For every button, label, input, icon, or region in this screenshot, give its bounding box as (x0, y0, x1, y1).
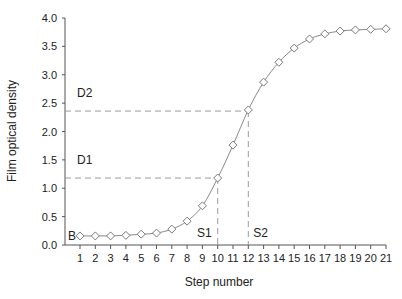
y-tick-label: 3.5 (42, 40, 57, 52)
y-tick-label: 0.0 (42, 239, 57, 251)
x-tick-label: 9 (199, 252, 205, 264)
x-tick-label: 2 (92, 252, 98, 264)
x-tick-label: 7 (169, 252, 175, 264)
diamond-marker-icon (137, 230, 145, 238)
annotation-label-d1: D1 (77, 153, 93, 167)
x-tick-label: 19 (349, 252, 361, 264)
y-tick-label: 1.5 (42, 154, 57, 166)
diamond-marker-icon (321, 30, 329, 38)
x-tick-label: 18 (334, 252, 346, 264)
chart-container: 0.00.51.01.52.02.53.03.54.01234567891011… (0, 0, 402, 299)
diamond-marker-icon (107, 232, 115, 240)
series-line (80, 29, 386, 236)
diamond-marker-icon (153, 229, 161, 237)
y-axis-title: Film optical density (5, 80, 19, 182)
diamond-marker-icon (382, 25, 390, 33)
diamond-marker-icon (229, 141, 237, 149)
annotation-label-b: B (68, 229, 76, 243)
x-axis-title: Step number (185, 275, 254, 289)
x-tick-label: 13 (257, 252, 269, 264)
diamond-marker-icon (76, 232, 84, 240)
y-tick-label: 3.0 (42, 69, 57, 81)
diamond-marker-icon (306, 35, 314, 43)
x-tick-label: 1 (77, 252, 83, 264)
y-tick-label: 2.5 (42, 97, 57, 109)
density-curve-chart: 0.00.51.01.52.02.53.03.54.01234567891011… (0, 0, 402, 299)
diamond-marker-icon (122, 231, 130, 239)
x-tick-label: 11 (227, 252, 238, 264)
x-tick-label: 6 (153, 252, 159, 264)
diamond-marker-icon (198, 202, 206, 210)
y-tick-label: 4.0 (42, 12, 57, 24)
diamond-marker-icon (168, 225, 176, 233)
y-tick-label: 1.0 (42, 182, 57, 194)
x-tick-label: 10 (212, 252, 224, 264)
diamond-marker-icon (260, 78, 268, 86)
x-tick-label: 16 (303, 252, 315, 264)
diamond-marker-icon (351, 26, 359, 34)
x-tick-label: 15 (288, 252, 300, 264)
annotation-label-d2: D2 (77, 86, 93, 100)
annotation-label-s1: S1 (197, 226, 212, 240)
x-tick-label: 5 (138, 252, 144, 264)
diamond-marker-icon (367, 25, 375, 33)
annotation-label-s2: S2 (253, 226, 268, 240)
diamond-marker-icon (336, 27, 344, 35)
x-tick-label: 8 (184, 252, 190, 264)
diamond-marker-icon (91, 232, 99, 240)
x-tick-label: 14 (273, 252, 285, 264)
x-tick-label: 21 (380, 252, 392, 264)
x-tick-label: 4 (123, 252, 129, 264)
x-tick-label: 3 (108, 252, 114, 264)
y-tick-label: 2.0 (42, 126, 57, 138)
data-series (76, 25, 390, 240)
y-tick-label: 0.5 (42, 211, 57, 223)
axes: 0.00.51.01.52.02.53.03.54.01234567891011… (42, 12, 392, 264)
diamond-marker-icon (214, 174, 222, 182)
annotations: BD1D2S1S2 (65, 86, 268, 245)
x-tick-label: 12 (242, 252, 254, 264)
x-tick-label: 17 (319, 252, 331, 264)
diamond-marker-icon (244, 106, 252, 114)
x-tick-label: 20 (365, 252, 377, 264)
